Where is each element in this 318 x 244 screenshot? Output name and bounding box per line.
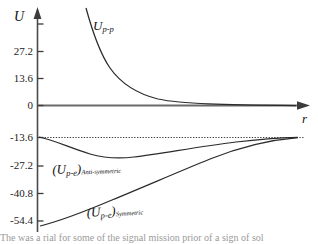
y-tick-label-neg-40-8: -40.8 bbox=[0, 188, 33, 199]
curve-up-e-anti-symmetric bbox=[39, 137, 298, 158]
x-axis-label: r bbox=[302, 112, 307, 126]
y-tick-label-27-2: 27.2 bbox=[0, 46, 33, 57]
curve-up-p bbox=[86, 8, 296, 106]
sym-label-qualifier: Symmetric bbox=[116, 208, 144, 217]
y-tick-label-13-6: 13.6 bbox=[0, 73, 33, 84]
sym-label-sub: p-e bbox=[100, 210, 112, 221]
curve-label-up-e-symmetric: (Up-e)Symmetric bbox=[86, 199, 144, 221]
y-axis bbox=[34, 7, 42, 232]
sym-label-main: U bbox=[90, 204, 100, 220]
anti-label-main: U bbox=[56, 162, 66, 177]
y-axis-label: U bbox=[14, 10, 24, 24]
y-tick-label-neg-13-6: -13.6 bbox=[0, 132, 33, 143]
anti-label-sub: p-e bbox=[66, 168, 77, 178]
cropped-caption-text: The was a rial for some of the signal mi… bbox=[0, 232, 318, 244]
y-tick-label-0: 0 bbox=[0, 100, 33, 111]
y-tick-label-neg-54-4: -54.4 bbox=[0, 215, 33, 226]
y-tick-label-neg-27-2: -27.2 bbox=[0, 160, 33, 171]
curve-label-up-p-sub: p-p bbox=[102, 24, 113, 34]
plot-canvas bbox=[0, 0, 318, 244]
curve-label-up-p-main: U bbox=[93, 18, 102, 33]
anti-label-qualifier: Anti-symmetric bbox=[81, 167, 121, 175]
curve-label-up-p: Up-p bbox=[93, 16, 114, 34]
potential-energy-figure: U r 27.2 13.6 0 -13.6 -27.2 -40.8 -54.4 … bbox=[0, 0, 318, 244]
y-axis-ticks bbox=[38, 24, 44, 221]
curve-label-up-e-anti-symmetric: (Up-e)Anti-symmetric bbox=[52, 158, 121, 179]
